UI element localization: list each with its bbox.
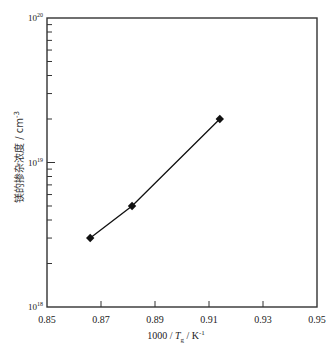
series-line: [90, 119, 220, 238]
y-axis-ticks: 101810191020: [28, 12, 55, 312]
x-tick-label: 0.89: [146, 314, 164, 325]
x-label-exponent: -1: [199, 329, 205, 337]
x-label-unit: / K: [184, 330, 199, 341]
y-tick-label: 1020: [28, 12, 43, 23]
x-tick-label: 0.85: [38, 314, 56, 325]
y-axis-label-text: 镁的掺杂浓度 / cm: [14, 118, 25, 203]
y-tick-label: 1018: [28, 301, 43, 312]
x-axis-ticks: 0.850.870.890.910.930.95: [38, 301, 326, 325]
x-tick-label: 0.93: [254, 314, 272, 325]
x-tick-label: 0.87: [92, 314, 110, 325]
y-axis-label-exponent: -3: [13, 111, 21, 118]
chart-plot: 0.850.870.890.910.930.95 101810191020: [0, 0, 333, 352]
x-axis-label: 1000 / Tg / K-1: [116, 329, 236, 344]
y-axis-label: 镁的掺杂浓度 / cm-3: [11, 87, 25, 227]
plot-frame: [47, 18, 317, 307]
x-label-prefix: 1000 /: [147, 330, 175, 341]
y-tick-label: 1019: [28, 157, 43, 168]
x-tick-label: 0.91: [200, 314, 218, 325]
data-series: [86, 115, 224, 242]
x-tick-label: 0.95: [308, 314, 326, 325]
